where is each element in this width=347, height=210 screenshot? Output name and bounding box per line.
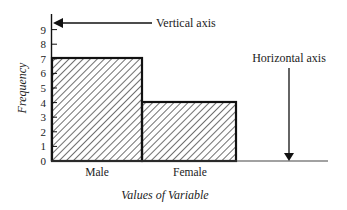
y-tick-6: 6 <box>41 67 47 79</box>
y-tick-5: 5 <box>41 82 47 94</box>
y-tick-2: 2 <box>41 126 47 138</box>
histogram-chart: 0 1 2 3 4 5 6 7 8 9 Frequency Vertical a… <box>0 0 347 210</box>
y-tick-4: 4 <box>41 97 47 109</box>
y-tick-3: 3 <box>41 111 47 123</box>
y-tick-7: 7 <box>41 53 47 65</box>
category-label-female: Female <box>173 166 207 178</box>
arrow-left-icon <box>53 18 63 28</box>
y-tick-8: 8 <box>41 38 47 50</box>
x-axis-title: Values of Variable <box>121 188 209 202</box>
category-label-male: Male <box>85 166 109 178</box>
bar-male <box>52 58 142 161</box>
y-axis-title: Frequency <box>15 62 29 115</box>
y-tick-0: 0 <box>41 155 47 167</box>
y-tick-9: 9 <box>41 24 47 36</box>
bar-female <box>142 102 236 161</box>
arrow-down-icon <box>284 153 294 161</box>
horizontal-axis-annotation: Horizontal axis <box>252 51 326 161</box>
y-tick-1: 1 <box>41 140 47 152</box>
horizontal-axis-label: Horizontal axis <box>252 51 326 65</box>
vertical-axis-label: Vertical axis <box>156 16 216 30</box>
vertical-axis-annotation: Vertical axis <box>53 16 216 30</box>
y-tick-labels: 0 1 2 3 4 5 6 7 8 9 <box>41 24 47 167</box>
